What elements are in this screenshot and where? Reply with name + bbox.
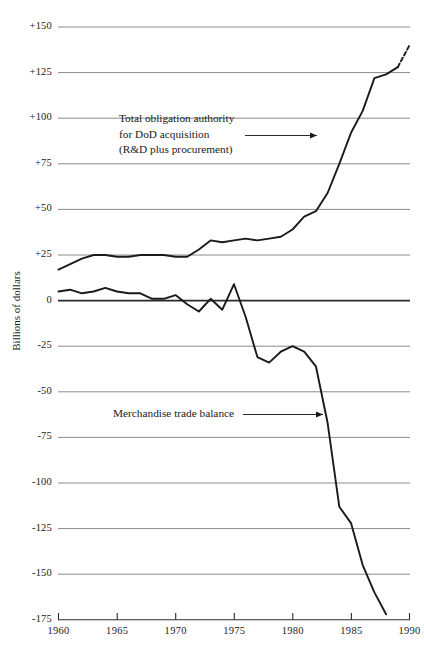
series-dod-acquisition-projection xyxy=(398,45,410,67)
series-merchandise-trade-balance xyxy=(59,284,387,614)
trade-annotation-arrow xyxy=(243,412,323,418)
trade-annotation-line1: Merchandise trade balance xyxy=(113,406,234,422)
dod-annotation-line2: for DoD acquisition xyxy=(119,127,234,143)
x-axis xyxy=(58,613,410,620)
series-dod-acquisition xyxy=(59,67,398,270)
y-tick-label-neg100: -100 xyxy=(8,476,52,487)
x-tick-label-1965: 1965 xyxy=(95,625,140,636)
y-tick-label-50: +50 xyxy=(8,202,52,213)
y-tick-label-75: +75 xyxy=(8,157,52,168)
dod-annotation-arrow xyxy=(245,133,317,139)
y-tick-label-100: +100 xyxy=(8,111,52,122)
x-tick-label-1990: 1990 xyxy=(387,625,424,636)
dod-annotation-line1: Total obligation authority xyxy=(119,111,234,127)
gridlines xyxy=(58,27,410,574)
trade-annotation: Merchandise trade balance xyxy=(113,406,234,422)
y-tick-label-neg75: -75 xyxy=(8,430,52,441)
x-tick-label-1985: 1985 xyxy=(329,625,374,636)
x-tick-label-1970: 1970 xyxy=(153,625,198,636)
chart-plot-area xyxy=(0,0,424,647)
y-tick-label-neg150: -150 xyxy=(8,567,52,578)
y-tick-label-neg50: -50 xyxy=(8,385,52,396)
dod-annotation: Total obligation authority for DoD acqui… xyxy=(119,111,234,158)
y-tick-label-125: +125 xyxy=(8,66,52,77)
y-axis-title: Billions of dollars xyxy=(10,251,22,371)
x-tick-label-1980: 1980 xyxy=(270,625,315,636)
y-tick-label-150: +150 xyxy=(8,20,52,31)
x-tick-label-1975: 1975 xyxy=(212,625,257,636)
dod-annotation-line3: (R&D plus procurement) xyxy=(119,142,234,158)
y-tick-label-neg175: -175 xyxy=(8,613,52,624)
y-tick-label-neg125: -125 xyxy=(8,522,52,533)
chart-figure: +150 +125 +100 +75 +50 +25 0 -25 -50 -75… xyxy=(0,0,424,647)
x-tick-label-1960: 1960 xyxy=(36,625,81,636)
